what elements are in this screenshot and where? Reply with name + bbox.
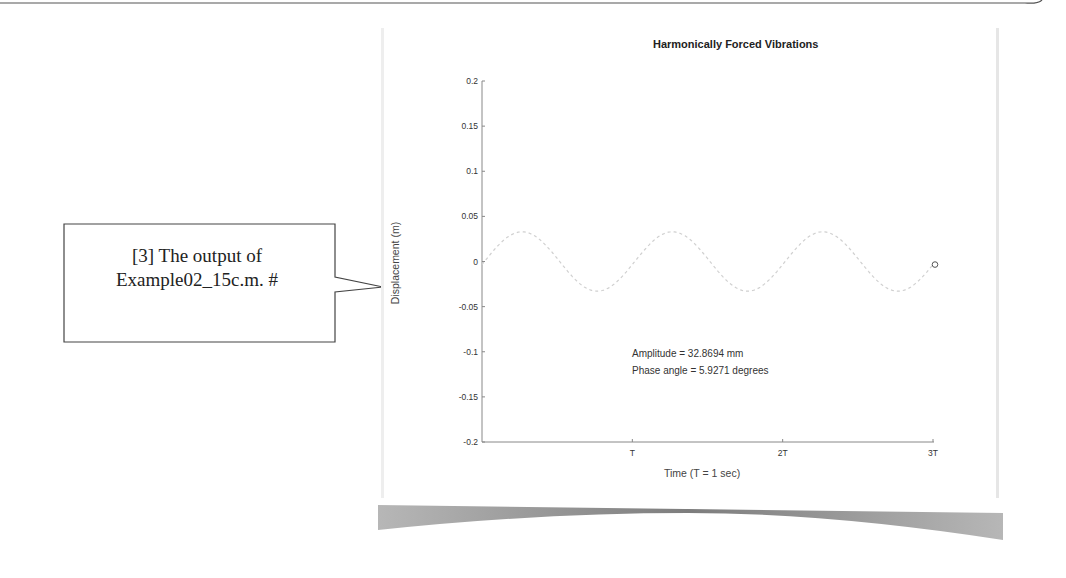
phase-annotation: Phase angle = 5.9271 degrees [632,365,769,376]
x-tick-label: 3T [928,448,938,458]
chart-title: Harmonically Forced Vibrations [653,38,818,50]
y-tick-label: 0.1 [466,166,478,176]
y-axis-label: Displacement (m) [389,222,401,304]
page-shadow [378,505,1003,550]
x-tick-labels: T2T3T [630,448,938,458]
y-tick-label: -0.15 [459,392,479,402]
amplitude-annotation: Amplitude = 32.8694 mm [632,348,743,359]
plot-area: 0.20.150.10.050-0.05-0.1-0.15-0.2 T2T3T [0,0,1066,578]
y-tick-label: -0.05 [459,302,479,312]
y-tick-label: 0.2 [466,76,478,86]
x-tick-label: T [630,448,635,458]
x-tick-label: 2T [778,448,788,458]
y-tick-label: 0.05 [461,211,478,221]
x-axis-label: Time (T = 1 sec) [664,467,740,479]
y-tick-labels: 0.20.150.10.050-0.05-0.1-0.15-0.2 [459,76,479,447]
end-marker [932,262,938,268]
y-tick-label: 0 [473,257,478,267]
y-tick-label: -0.2 [463,437,478,447]
y-tick-label: 0.15 [461,121,478,131]
displacement-curve [482,232,933,291]
y-tick-label: -0.1 [463,347,478,357]
